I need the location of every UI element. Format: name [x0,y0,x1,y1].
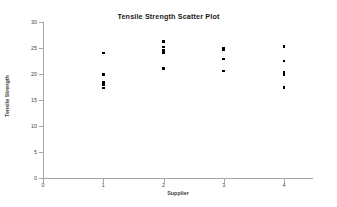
y-axis-line [43,22,44,179]
data-point [222,58,225,61]
scatter-chart: Tensile Strength Scatter Plot 0510152025… [0,0,337,207]
y-tick [39,152,43,153]
y-axis-title: Tensile Strength [4,56,10,136]
x-axis-line [43,178,313,179]
data-point [162,51,165,54]
y-tick [39,48,43,49]
x-tick-label: 1 [93,182,113,188]
x-tick-label: 0 [33,182,53,188]
data-point [283,60,286,63]
data-point [102,87,105,90]
data-point [283,73,286,76]
data-point [283,45,286,48]
data-point [102,83,105,86]
plot-area: 051015202530 01234 Supplier Tensile Stre… [0,0,337,207]
y-tick [39,22,43,23]
x-tick-label: 4 [274,182,294,188]
x-tick-label: 3 [214,182,234,188]
data-point [162,40,165,43]
y-tick [39,126,43,127]
data-point [102,73,105,76]
y-tick [39,100,43,101]
y-tick-label: 25 [3,45,37,51]
y-tick [39,74,43,75]
data-point [222,70,225,73]
data-point [222,48,225,51]
data-point [283,86,286,89]
x-tick-label: 2 [154,182,174,188]
y-tick-label: 0 [3,175,37,181]
data-point [162,67,165,70]
x-axis-title: Supplier [43,190,313,196]
y-tick-label: 5 [3,149,37,155]
data-point [102,52,105,55]
y-tick-label: 30 [3,19,37,25]
